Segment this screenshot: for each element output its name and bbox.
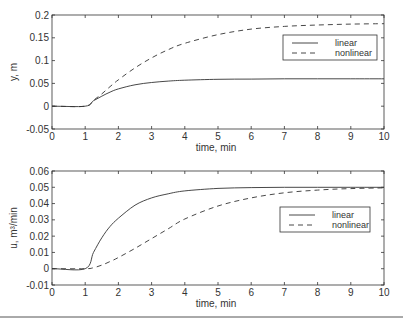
x-tick-label: 7	[282, 131, 288, 142]
legend-label-linear: linear	[332, 210, 354, 220]
x-tick-label: 5	[215, 287, 221, 298]
x-tick-label: 2	[116, 287, 122, 298]
x-tick-label: 7	[282, 287, 288, 298]
bottom-plot-u: 012345678910-0.0100.010.020.030.040.050.…	[8, 166, 390, 310]
y-tick-label: 0.2	[35, 10, 49, 21]
y-tick-label: 0.05	[30, 78, 50, 89]
x-tick-label: 6	[248, 287, 254, 298]
y-tick-label: 0.05	[30, 182, 50, 193]
x-tick-label: 4	[182, 287, 188, 298]
y-tick-label: -0.05	[26, 124, 49, 135]
x-tick-label: 8	[315, 131, 321, 142]
y-tick-label: 0	[43, 101, 49, 112]
y-tick-label: 0.01	[30, 247, 50, 258]
x-tick-label: 9	[348, 287, 354, 298]
x-tick-label: 9	[348, 131, 354, 142]
x-axis-label: time, min	[196, 298, 237, 309]
y-tick-label: 0.03	[30, 214, 50, 225]
x-tick-label: 4	[182, 131, 188, 142]
x-tick-label: 6	[248, 131, 254, 142]
x-tick-label: 2	[116, 131, 122, 142]
y-tick-label: 0.15	[30, 32, 50, 43]
series-line-linear	[52, 79, 384, 107]
x-tick-label: 3	[149, 131, 155, 142]
x-tick-label: 8	[315, 287, 321, 298]
figure: 012345678910-0.0500.050.10.150.2time, mi…	[0, 0, 403, 323]
y-axis-label: u, m³/min	[8, 207, 19, 249]
y-tick-label: 0.02	[30, 231, 50, 242]
x-tick-label: 1	[82, 287, 88, 298]
x-tick-label: 5	[215, 131, 221, 142]
x-tick-label: 10	[378, 131, 390, 142]
axes-box	[52, 15, 384, 129]
legend-label-linear: linear	[335, 38, 357, 48]
x-tick-label: 3	[149, 287, 155, 298]
legend-label-nonlinear: nonlinear	[335, 48, 372, 58]
y-tick-label: 0	[43, 263, 49, 274]
legend-label-nonlinear: nonlinear	[332, 220, 369, 230]
y-axis-label: y, m	[8, 63, 19, 81]
y-tick-label: 0.1	[35, 55, 49, 66]
x-tick-label: 1	[82, 131, 88, 142]
x-axis-label: time, min	[196, 142, 237, 153]
x-tick-label: 0	[49, 131, 55, 142]
x-tick-label: 10	[378, 287, 390, 298]
top-plot-y: 012345678910-0.0500.050.10.150.2time, mi…	[8, 10, 390, 154]
y-tick-label: -0.01	[26, 280, 49, 291]
y-tick-label: 0.04	[30, 198, 50, 209]
y-tick-label: 0.06	[30, 166, 50, 177]
x-tick-label: 0	[49, 287, 55, 298]
